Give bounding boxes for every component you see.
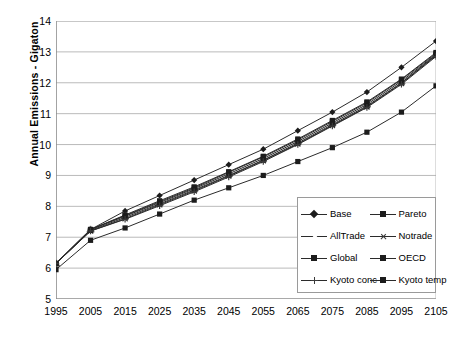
square-filled-marker-icon <box>301 253 327 264</box>
square-filled-marker-icon <box>370 253 396 264</box>
legend-label: OECD <box>399 253 426 263</box>
legend-item-global[interactable]: Global <box>298 253 367 264</box>
x-axis-tick: 2085 <box>355 306 378 317</box>
x-axis-tick: 2045 <box>217 306 240 317</box>
x-marker-icon <box>370 231 396 242</box>
y-axis-tick: 10 <box>39 139 51 150</box>
square-filled-marker-icon <box>370 275 396 286</box>
legend-item-oecd[interactable]: OECD <box>367 253 436 264</box>
legend-item-base[interactable]: Base <box>298 209 367 220</box>
y-axis-tick: 5 <box>45 294 51 305</box>
legend-row: Base Pareto <box>298 203 435 225</box>
square-marker-icon <box>370 209 396 220</box>
y-axis-tick: 6 <box>45 263 51 274</box>
y-axis-title: Annual Emissions - Gigaton <box>28 0 40 194</box>
diamond-marker-icon <box>301 209 327 220</box>
chart-legend: Base Pareto AllTrade Notrade <box>297 197 436 293</box>
x-axis-tick: 1995 <box>44 306 67 317</box>
y-axis-tick: 9 <box>45 170 51 181</box>
x-axis-tick: 2005 <box>79 306 102 317</box>
legend-item-pareto[interactable]: Pareto <box>367 209 436 220</box>
legend-label: Kyoto temp <box>399 275 447 285</box>
legend-label: Notrade <box>399 231 433 241</box>
legend-row: Global OECD <box>298 247 435 269</box>
y-axis-tick: 7 <box>45 232 51 243</box>
legend-label: AllTrade <box>330 231 365 241</box>
x-axis-tick: 2095 <box>390 306 413 317</box>
triangle-marker-icon <box>301 231 327 242</box>
chart-figure: Annual Emissions - Gigaton 5678910111213… <box>0 0 460 360</box>
x-axis-tick: 2035 <box>182 306 205 317</box>
legend-row: Kyoto conc Kyoto temp <box>298 269 435 291</box>
y-axis-tick: 11 <box>40 108 51 119</box>
y-axis-tick: 13 <box>39 47 51 58</box>
plus-marker-icon <box>301 275 327 286</box>
x-axis-tick: 2025 <box>148 306 171 317</box>
legend-row: AllTrade Notrade <box>298 225 435 247</box>
legend-item-kyoto-conc[interactable]: Kyoto conc <box>298 275 367 286</box>
y-axis-tick: 12 <box>39 78 51 89</box>
x-axis-tick: 2065 <box>286 306 309 317</box>
x-axis-tick: 2055 <box>252 306 275 317</box>
x-axis-tick: 2105 <box>424 306 447 317</box>
y-axis-tick: 8 <box>45 201 51 212</box>
legend-label: Global <box>330 253 357 263</box>
legend-item-alltrade[interactable]: AllTrade <box>298 231 367 242</box>
y-axis-tick: 14 <box>39 16 51 27</box>
legend-label: Base <box>330 209 352 219</box>
x-axis-tick: 2015 <box>113 306 136 317</box>
x-axis-tick: 2075 <box>321 306 344 317</box>
legend-label: Pareto <box>399 209 427 219</box>
legend-item-notrade[interactable]: Notrade <box>367 231 436 242</box>
legend-item-kyoto-temp[interactable]: Kyoto temp <box>367 275 436 286</box>
